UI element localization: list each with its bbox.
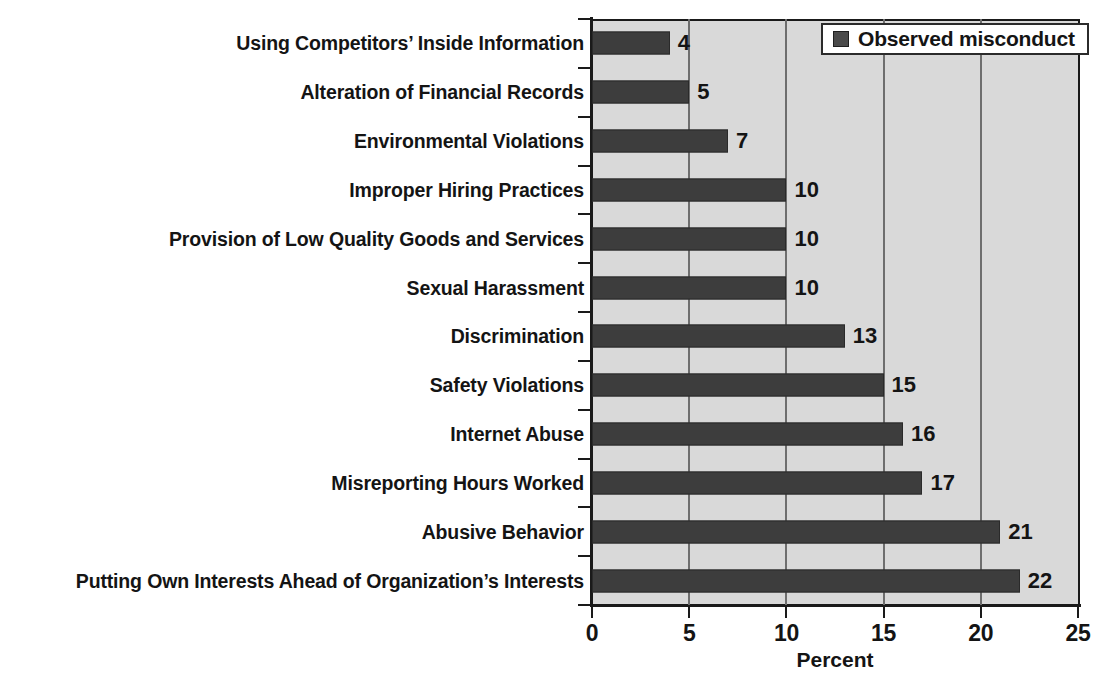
bar-value-label: 4 — [678, 30, 690, 56]
chart-category-row: Misreporting Hours Worked17 — [0, 459, 1108, 508]
bar-value-label: 17 — [930, 470, 954, 496]
chart-legend: Observed misconduct — [821, 23, 1089, 55]
x-axis-tick — [1077, 607, 1079, 618]
category-label: Using Competitors’ Inside Information — [236, 32, 584, 55]
bar — [592, 227, 786, 250]
category-label: Environmental Violations — [354, 130, 584, 153]
bar-value-label: 21 — [1008, 519, 1032, 545]
legend-swatch-icon — [833, 31, 849, 47]
bar-value-label: 15 — [892, 372, 916, 398]
chart-category-row: Discrimination13 — [0, 312, 1108, 361]
bar — [592, 471, 922, 494]
bar-value-label: 10 — [794, 275, 818, 301]
category-label: Discrimination — [451, 325, 584, 348]
chart-category-row: Alteration of Financial Records5 — [0, 68, 1108, 117]
category-label: Putting Own Interests Ahead of Organizat… — [76, 569, 584, 592]
category-label: Provision of Low Quality Goods and Servi… — [169, 227, 584, 250]
bar-value-label: 10 — [794, 177, 818, 203]
x-axis-tick-label: 10 — [756, 620, 816, 647]
chart-category-row: Environmental Violations7 — [0, 117, 1108, 166]
chart-category-row: Putting Own Interests Ahead of Organizat… — [0, 556, 1108, 605]
bar — [592, 569, 1020, 592]
chart-category-row: Abusive Behavior21 — [0, 507, 1108, 556]
x-axis-tick-label: 20 — [951, 620, 1011, 647]
bar-value-label: 7 — [736, 128, 748, 154]
x-axis-tick-label: 15 — [854, 620, 914, 647]
x-axis-tick-label: 0 — [562, 620, 622, 647]
bar-value-label: 10 — [794, 226, 818, 252]
legend-label: Observed misconduct — [858, 27, 1075, 51]
x-axis-tick-label: 25 — [1048, 620, 1108, 647]
bar-value-label: 16 — [911, 421, 935, 447]
bar-chart-figure: 0510152025 Using Competitors’ Inside Inf… — [0, 0, 1108, 678]
chart-category-row: Safety Violations15 — [0, 361, 1108, 410]
category-label: Improper Hiring Practices — [349, 178, 584, 201]
bar-value-label: 13 — [853, 323, 877, 349]
bar-value-label: 22 — [1028, 568, 1052, 594]
bar — [592, 32, 670, 55]
x-axis-tick — [785, 607, 787, 618]
x-axis-tick — [980, 607, 982, 618]
bar — [592, 423, 903, 446]
category-label: Alteration of Financial Records — [300, 81, 584, 104]
x-axis-tick-label: 5 — [659, 620, 719, 647]
bar — [592, 520, 1000, 543]
x-axis-tick — [883, 607, 885, 618]
chart-category-row: Improper Hiring Practices10 — [0, 166, 1108, 215]
chart-category-row: Sexual Harassment10 — [0, 263, 1108, 312]
category-label: Safety Violations — [430, 374, 584, 397]
chart-category-row: Provision of Low Quality Goods and Servi… — [0, 214, 1108, 263]
category-label: Misreporting Hours Worked — [331, 471, 584, 494]
bar — [592, 276, 786, 299]
bar — [592, 130, 728, 153]
bar — [592, 81, 689, 104]
bar — [592, 325, 845, 348]
chart-category-row: Internet Abuse16 — [0, 410, 1108, 459]
x-axis-label: Percent — [592, 648, 1078, 672]
bar-value-label: 5 — [697, 79, 709, 105]
x-axis-tick — [591, 607, 593, 618]
category-label: Internet Abuse — [450, 423, 584, 446]
bar — [592, 374, 884, 397]
x-axis-tick — [688, 607, 690, 618]
bar — [592, 178, 786, 201]
category-label: Sexual Harassment — [407, 276, 584, 299]
category-label: Abusive Behavior — [422, 520, 584, 543]
